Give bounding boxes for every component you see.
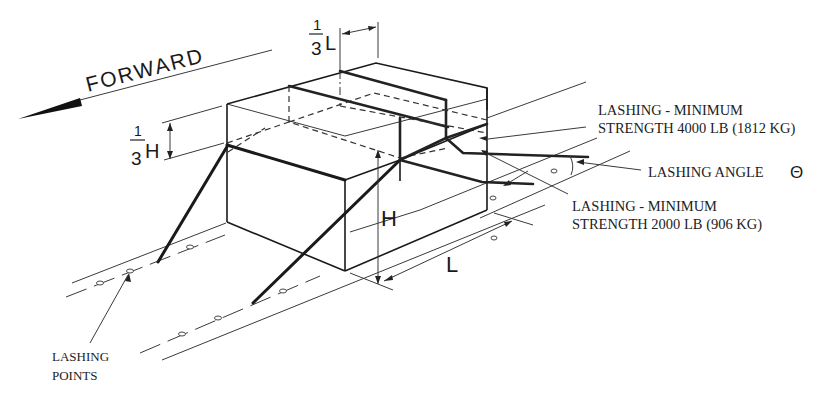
- third-length-variable: L: [325, 32, 336, 54]
- dimension-third-height: [162, 106, 224, 160]
- floor-tracks: [66, 138, 630, 360]
- lashing-angle-label: LASHING ANGLE: [648, 164, 764, 180]
- theta-symbol: Θ: [790, 163, 803, 182]
- cargo-lashing-diagram: FORWARD: [0, 0, 838, 401]
- length-label: L: [446, 252, 458, 277]
- third-length-denominator: 3: [311, 38, 322, 59]
- third-height-variable: H: [145, 140, 159, 162]
- forward-label: FORWARD: [83, 43, 206, 96]
- third-length-numerator: 1: [313, 16, 321, 33]
- lashing-2000-line1: LASHING - MINIMUM: [572, 198, 717, 214]
- lashing-point-holes: [97, 169, 558, 336]
- cargo-box: [227, 63, 487, 271]
- lashing-4000-line1: LASHING - MINIMUM: [598, 102, 743, 118]
- lashing-points-line1: LASHING: [52, 349, 109, 364]
- lashing-4000-line2: STRENGTH 4000 LB (1812 KG): [598, 120, 796, 137]
- lashing-points-line2: POINTS: [52, 368, 98, 383]
- dimension-length: [384, 213, 533, 281]
- dimension-third-length: [340, 22, 378, 70]
- third-height-denominator: 3: [131, 148, 142, 169]
- leader-lines: [90, 82, 586, 343]
- lashing-angle-arc: [570, 156, 641, 175]
- third-height-numerator: 1: [134, 123, 142, 139]
- lashing-2000-line2: STRENGTH 2000 LB (906 KG): [572, 216, 762, 233]
- height-label: H: [381, 206, 397, 231]
